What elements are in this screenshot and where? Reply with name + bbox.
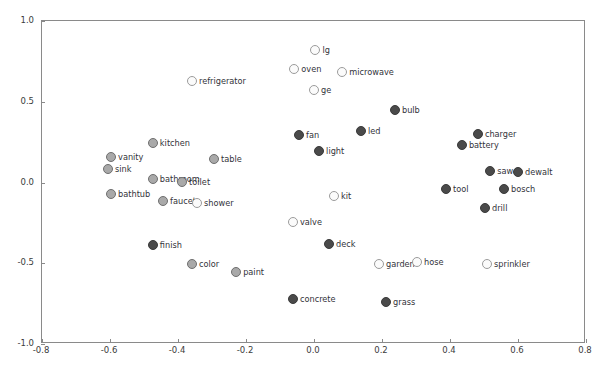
scatter-point-label: bosch [511, 184, 535, 194]
x-axis-tick [518, 339, 519, 343]
scatter-point[interactable] [288, 217, 298, 227]
scatter-point[interactable] [148, 174, 158, 184]
x-axis-tick [450, 339, 451, 343]
scatter-point[interactable] [289, 64, 299, 74]
scatter-point[interactable] [177, 177, 187, 187]
scatter-point-label: concrete [300, 294, 336, 304]
x-axis-tick-label: 0.6 [510, 345, 524, 355]
scatter-point-label: lg [322, 45, 329, 55]
scatter-point[interactable] [187, 76, 197, 86]
scatter-point-label: kit [341, 191, 351, 201]
scatter-point[interactable] [309, 85, 319, 95]
scatter-point-label: drill [492, 203, 507, 213]
scatter-point-label: deck [336, 239, 355, 249]
scatter-point[interactable] [231, 267, 241, 277]
scatter-point[interactable] [381, 297, 391, 307]
scatter-point[interactable] [480, 203, 490, 213]
scatter-point-label: finish [160, 240, 182, 250]
x-axis-tick-label: 0.0 [306, 345, 320, 355]
scatter-point[interactable] [148, 138, 158, 148]
scatter-point[interactable] [294, 130, 304, 140]
scatter-point[interactable] [356, 126, 366, 136]
scatter-point[interactable] [288, 294, 298, 304]
scatter-point[interactable] [158, 196, 168, 206]
scatter-point[interactable] [148, 240, 158, 250]
scatter-point[interactable] [324, 239, 334, 249]
scatter-point-label: toilet [189, 177, 210, 187]
scatter-point[interactable] [390, 105, 400, 115]
scatter-point-label: dewalt [525, 167, 552, 177]
y-axis-tick-label: -0.5 [0, 257, 34, 267]
scatter-point-label: bathtub [118, 189, 150, 199]
scatter-point-label: fan [306, 130, 319, 140]
scatter-point[interactable] [485, 166, 495, 176]
x-axis-tick-label: -0.2 [237, 345, 254, 355]
x-axis-tick-label: -0.6 [101, 345, 118, 355]
scatter-point[interactable] [106, 189, 116, 199]
x-axis-tick-label: 0.8 [578, 345, 592, 355]
scatter-point-label: microwave [349, 67, 394, 77]
scatter-point-label: ge [321, 85, 331, 95]
y-axis-tick-label: 0.5 [0, 96, 34, 106]
scatter-point[interactable] [209, 154, 219, 164]
y-axis-tick [41, 183, 45, 184]
x-axis-tick [586, 339, 587, 343]
scatter-plot-figure: -0.8-0.6-0.4-0.20.00.20.40.60.81.00.50.0… [0, 0, 596, 378]
scatter-point-label: light [326, 146, 344, 156]
scatter-point-label: sprinkler [494, 259, 530, 269]
x-axis-tick [110, 339, 111, 343]
x-axis-tick-label: 0.2 [374, 345, 388, 355]
y-axis-tick-label: 1.0 [0, 15, 34, 25]
scatter-point[interactable] [192, 198, 202, 208]
scatter-point[interactable] [412, 257, 422, 267]
x-axis-tick-label: -0.8 [33, 345, 50, 355]
scatter-point[interactable] [457, 140, 467, 150]
scatter-point-label: paint [243, 267, 264, 277]
x-axis-tick [382, 339, 383, 343]
scatter-point-label: battery [469, 140, 499, 150]
scatter-point[interactable] [329, 191, 339, 201]
scatter-point-label: vanity [118, 152, 143, 162]
scatter-point-label: valve [300, 217, 322, 227]
scatter-point-label: shower [204, 198, 234, 208]
scatter-point-label: kitchen [160, 138, 190, 148]
scatter-point[interactable] [187, 259, 197, 269]
scatter-point[interactable] [314, 146, 324, 156]
scatter-point-label: led [368, 126, 381, 136]
x-axis-tick [246, 339, 247, 343]
scatter-point[interactable] [337, 67, 347, 77]
y-axis-tick-label: 0.0 [0, 177, 34, 187]
scatter-point-label: bulb [402, 105, 420, 115]
x-axis-tick-label: -0.4 [169, 345, 186, 355]
scatter-point-label: table [221, 154, 242, 164]
scatter-point-label: color [199, 259, 219, 269]
y-axis-tick-label: -1.0 [0, 338, 34, 348]
scatter-point-label: saw [497, 166, 513, 176]
y-axis-tick [41, 21, 45, 22]
scatter-point[interactable] [106, 152, 116, 162]
scatter-point[interactable] [103, 164, 113, 174]
scatter-point-label: sink [115, 164, 131, 174]
x-axis-tick [42, 339, 43, 343]
x-axis-tick-label: 0.4 [442, 345, 456, 355]
scatter-point[interactable] [374, 259, 384, 269]
scatter-point[interactable] [441, 184, 451, 194]
scatter-point-label: charger [485, 129, 517, 139]
scatter-point[interactable] [473, 129, 483, 139]
scatter-point[interactable] [513, 167, 523, 177]
y-axis-tick [41, 102, 45, 103]
scatter-point[interactable] [499, 184, 509, 194]
scatter-point-label: tool [453, 184, 469, 194]
scatter-point[interactable] [310, 45, 320, 55]
scatter-point-label: hose [424, 257, 444, 267]
scatter-point-label: grass [393, 297, 415, 307]
scatter-point-label: refrigerator [199, 76, 246, 86]
scatter-point-label: garden [386, 259, 415, 269]
x-axis-tick [314, 339, 315, 343]
scatter-point[interactable] [482, 259, 492, 269]
y-axis-tick [41, 263, 45, 264]
scatter-point-label: oven [301, 64, 321, 74]
x-axis-tick [178, 339, 179, 343]
